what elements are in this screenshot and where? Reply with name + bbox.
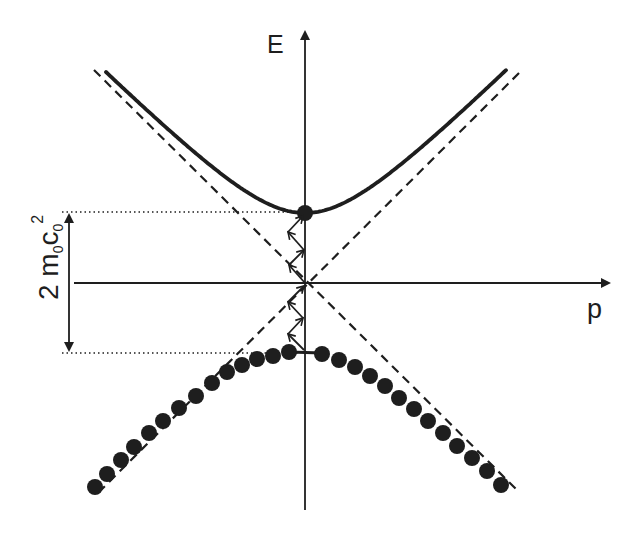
sea-state-dot bbox=[479, 463, 495, 479]
positive-energy-band bbox=[106, 70, 506, 213]
gap-label-c-sub: 0 bbox=[50, 224, 66, 232]
transition-arrow bbox=[289, 265, 305, 283]
sea-state-dot bbox=[141, 425, 157, 441]
sea-state-dot bbox=[234, 357, 250, 373]
sea-state-dot bbox=[171, 400, 187, 416]
sea-state-dot bbox=[449, 438, 465, 454]
sea-state-dot bbox=[219, 364, 235, 380]
sea-state-dot bbox=[265, 348, 281, 364]
transition-arrow bbox=[288, 302, 303, 318]
dirac-sea-diagram: E p 2 m0c02 bbox=[0, 0, 632, 533]
sea-state-dot bbox=[204, 375, 220, 391]
momentum-axis-label: p bbox=[587, 294, 602, 324]
transition-arrow bbox=[289, 250, 304, 265]
gap-label-m-sub: 0 bbox=[50, 245, 66, 253]
svg-text:2 m0c02: 2 m0c02 bbox=[29, 215, 66, 300]
sea-state-dot bbox=[464, 450, 480, 466]
sea-state-dot bbox=[99, 466, 115, 482]
sea-state-dot bbox=[113, 452, 129, 468]
transition-arrow bbox=[288, 318, 303, 334]
sea-state-dot bbox=[435, 425, 451, 441]
sea-state-dot bbox=[331, 352, 347, 368]
energy-axis-label: E bbox=[267, 30, 284, 58]
sea-state-dot bbox=[377, 378, 393, 394]
sea-state-dot bbox=[281, 344, 297, 360]
sea-state-dot bbox=[188, 388, 204, 404]
gap-label-prefix: 2 m bbox=[33, 253, 64, 300]
gap-label-c: c bbox=[33, 232, 64, 246]
sea-state-dot bbox=[249, 351, 265, 367]
sea-state-dot bbox=[126, 439, 142, 455]
transition-arrow bbox=[288, 216, 303, 232]
sea-state-dot bbox=[420, 413, 436, 429]
sea-state-dot bbox=[347, 359, 363, 375]
sea-state-dot bbox=[87, 479, 103, 495]
sea-state-dot bbox=[362, 368, 378, 384]
sea-state-dot bbox=[155, 413, 171, 429]
sea-state-dot bbox=[314, 346, 330, 362]
sea-state-dot bbox=[493, 477, 509, 493]
sea-state-dot bbox=[391, 390, 407, 406]
transition-arrow bbox=[288, 286, 304, 302]
gap-label-exponent: 2 bbox=[29, 215, 46, 224]
transition-arrow bbox=[288, 232, 304, 250]
gap-label: 2 m0c02 bbox=[29, 215, 66, 300]
sea-state-dot bbox=[406, 401, 422, 417]
